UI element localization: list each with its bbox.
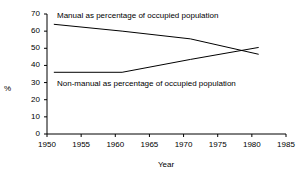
series-annotation-non-manual: Non-manual as percentage of occupied pop… [57,79,236,88]
x-tick-label: 1960 [98,140,132,149]
y-tick-label: 0 [18,129,40,138]
series-line-non-manual [54,47,259,72]
series-annotation-manual: Manual as percentage of occupied populat… [57,11,218,20]
y-tick-label: 20 [18,95,40,104]
data-series-group [54,24,259,72]
x-tick-label: 1975 [201,140,235,149]
y-tick-label: 10 [18,112,40,121]
y-tick-label: 40 [18,60,40,69]
y-tick-label: 70 [18,9,40,18]
x-tick-label: 1965 [132,140,166,149]
chart-plot-area [0,0,306,176]
y-tick-label: 50 [18,43,40,52]
x-axis-title: Year [158,160,174,169]
x-tick-label: 1980 [235,140,269,149]
y-axis-title: % [4,84,11,93]
series-line-manual [54,24,259,54]
x-tick-label: 1970 [167,140,201,149]
chart-container: 010203040506070 195019551960196519701975… [0,0,306,176]
x-tick-label: 1950 [30,140,64,149]
y-tick-label: 60 [18,26,40,35]
y-tick-label: 30 [18,78,40,87]
x-tick-label: 1955 [64,140,98,149]
x-tick-label: 1985 [269,140,303,149]
